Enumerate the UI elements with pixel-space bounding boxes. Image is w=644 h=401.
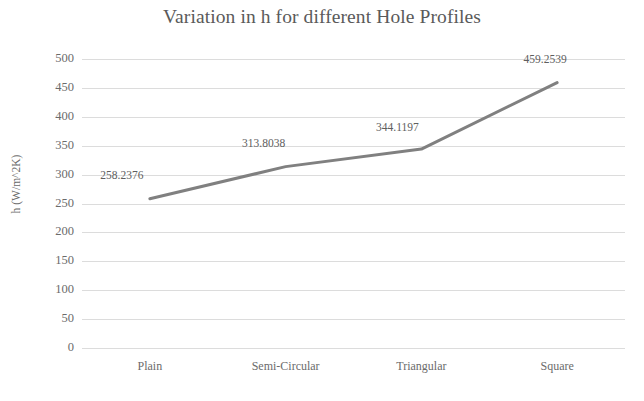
data-label: 258.2376 (100, 169, 143, 181)
gridline (82, 348, 625, 349)
y-axis-tick-label: 350 (28, 139, 74, 151)
x-axis-tick-label: Square (540, 359, 573, 374)
x-axis-tick-label: Semi-Circular (252, 359, 320, 374)
y-axis-tick-label: 50 (28, 312, 74, 324)
y-axis-tick-label: 150 (28, 254, 74, 266)
x-axis-tick-label: Plain (138, 359, 163, 374)
y-axis-tick-label: 300 (28, 168, 74, 180)
y-axis-tick-label: 250 (28, 197, 74, 209)
y-axis-tick-label: 200 (28, 225, 74, 237)
y-axis-title: h (W/m^2K) (10, 134, 22, 234)
plot-area: 258.2376313.8038344.1197459.2539 (82, 59, 625, 348)
y-axis-tick-label: 400 (28, 110, 74, 122)
y-axis-tick-label: 0 (28, 341, 74, 353)
chart-container: Variation in h for different Hole Profil… (0, 0, 644, 401)
data-label: 459.2539 (524, 53, 567, 65)
x-axis-tick-label: Triangular (396, 359, 446, 374)
y-axis-tick-label: 500 (28, 52, 74, 64)
y-axis-tick-label: 100 (28, 283, 74, 295)
data-label: 344.1197 (376, 121, 419, 133)
chart-title: Variation in h for different Hole Profil… (0, 6, 644, 28)
y-axis-tick-label: 450 (28, 81, 74, 93)
data-label: 313.8038 (242, 137, 285, 149)
series-polyline (150, 83, 557, 199)
series-line-h (82, 59, 625, 348)
